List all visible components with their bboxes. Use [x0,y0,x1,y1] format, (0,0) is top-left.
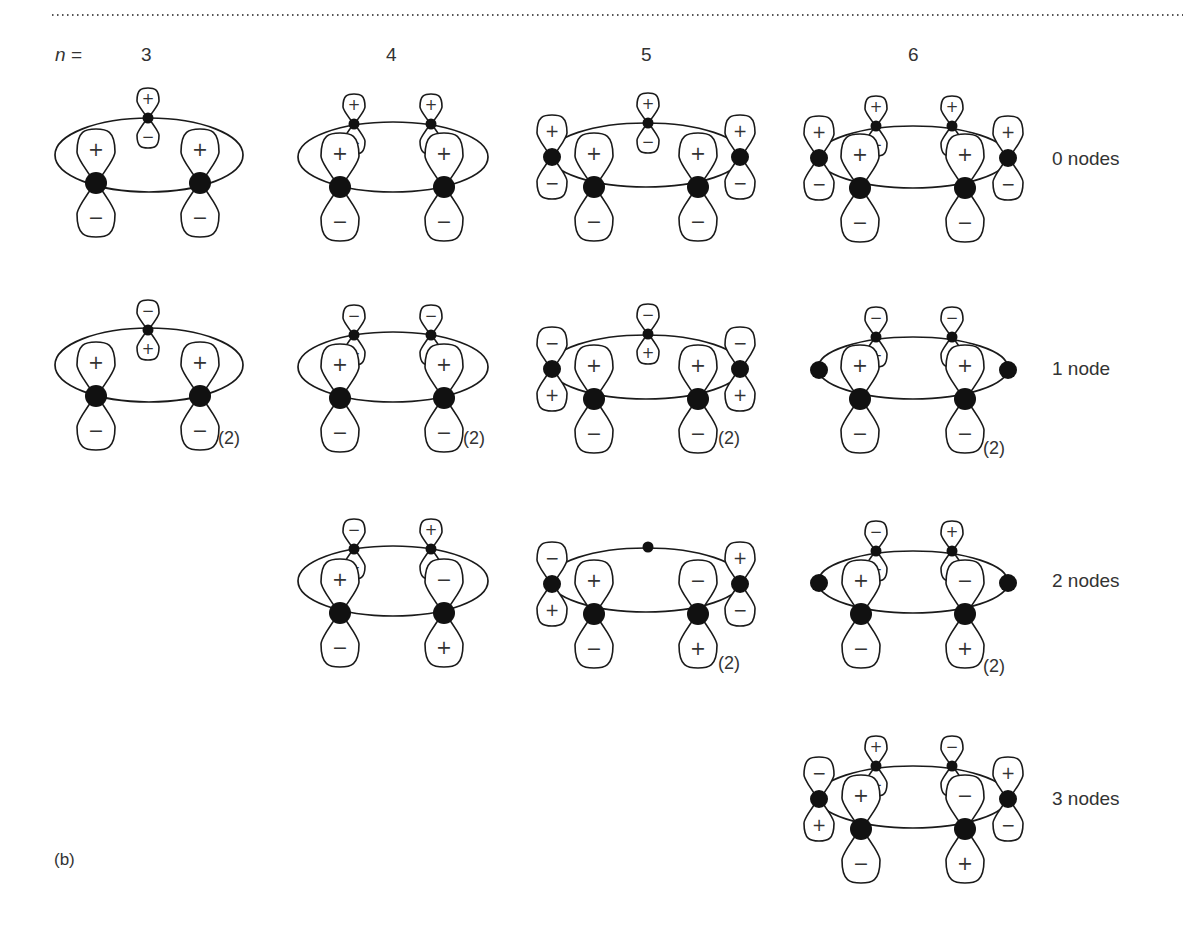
panel-label: (b) [54,850,75,870]
p-orbital: +− [537,115,567,199]
phase-sign-top: + [946,523,959,541]
row-label-2-nodes: 2 nodes [1052,570,1120,592]
carbon-atom [954,177,976,199]
mo-diagram-row2-n6: −++−+−−+ [810,521,1017,668]
carbon-atom [947,332,958,343]
carbon-atom [189,172,211,194]
phase-sign-bottom: + [812,815,826,835]
carbon-atom [947,546,958,557]
p-orbital: +− [725,115,755,199]
degeneracy-label: (2) [218,428,240,449]
row-label-1-node: 1 node [1052,358,1110,380]
carbon-atom [349,119,360,130]
phase-sign-bottom: − [852,211,868,233]
carbon-atom [999,790,1017,808]
p-orbital: −+ [946,775,984,883]
carbon-atom [871,761,882,772]
phase-sign-bottom: − [436,421,452,443]
phase-sign-top: + [852,143,868,165]
phase-sign-top: + [733,548,747,568]
carbon-atom [810,149,828,167]
row-label-0-nodes: 0 nodes [1052,148,1120,170]
orbital-diagrams: +−+−+−+−+−+−+−+−+−+−+−+−+−+−+−+−+−+−−++−… [55,88,1023,883]
phase-sign-bottom: + [733,385,747,405]
phase-sign-top: − [870,309,883,327]
phase-sign-top: − [946,309,959,327]
mo-diagram-row0-n4: +−+−+−+− [298,94,488,241]
phase-sign-top: + [853,784,869,806]
carbon-atom [643,329,654,340]
phase-sign-top: + [142,90,155,108]
phase-sign-bottom: − [733,173,747,193]
phase-sign-top: + [192,138,208,160]
carbon-atom [954,818,976,840]
phase-sign-top: − [812,763,826,783]
p-orbital: +− [575,345,613,453]
phase-sign-bottom: − [332,210,348,232]
phase-sign-top: + [425,521,438,539]
mo-diagram-row2-n4: −++−+−−+ [298,519,488,667]
mo-diagram-row3-n6: +−−+−++−+−−+ [804,736,1023,883]
phase-sign-top: − [946,738,959,756]
p-orbital: −+ [137,300,159,360]
phase-sign-bottom: + [690,637,706,659]
carbon-atom [954,388,976,410]
mo-diagram-row1-n3: −++−+− [55,300,243,450]
carbon-atom [687,176,709,198]
phase-sign-top: + [586,569,602,591]
p-orbital: −+ [804,757,834,841]
carbon-atom [687,603,709,625]
p-orbital: +− [679,133,717,241]
mo-diagram-row0-n5: +−+−+−+−+− [537,93,755,241]
p-orbital: +− [725,542,755,626]
carbon-atom [543,360,561,378]
mo-diagram-row2-n5: −++−+−−+ [537,542,755,669]
p-orbital: +− [946,134,984,242]
carbon-atom [543,148,561,166]
p-orbital: +− [77,129,115,237]
p-orbital: −+ [946,560,984,668]
p-orbital: +− [842,560,880,668]
phase-sign-bottom: + [545,385,559,405]
phase-sign-bottom: − [957,211,973,233]
phase-sign-bottom: − [853,637,869,659]
node-atom [999,574,1017,592]
p-orbital: −+ [637,304,659,364]
phase-sign-bottom: − [853,852,869,874]
carbon-atom [143,113,154,124]
phase-sign-bottom: − [88,206,104,228]
phase-sign-top: + [425,96,438,114]
carbon-atom [349,544,360,555]
carbon-atom [329,176,351,198]
phase-sign-top: + [853,569,869,591]
carbon-atom [583,603,605,625]
phase-sign-bottom: − [586,637,602,659]
carbon-atom [954,603,976,625]
phase-sign-top: + [436,353,452,375]
p-orbital [810,574,828,592]
mo-diagram-row1-n4: −+−++−+− [298,305,488,452]
phase-sign-top: − [436,568,452,590]
phase-sign-top: − [348,521,361,539]
p-orbital [810,361,828,379]
carbon-atom [643,118,654,129]
phase-sign-top: + [586,142,602,164]
phase-sign-bottom: − [332,636,348,658]
phase-sign-top: + [545,121,559,141]
carbon-atom [85,172,107,194]
phase-sign-bottom: − [957,422,973,444]
carbon-atom [189,385,211,407]
carbon-atom [426,544,437,555]
p-orbital: +− [425,133,463,241]
phase-sign-bottom: + [545,600,559,620]
phase-sign-top: + [348,96,361,114]
phase-sign-top: + [946,98,959,116]
phase-sign-top: + [957,354,973,376]
carbon-atom [143,325,154,336]
phase-sign-top: + [332,568,348,590]
phase-sign-bottom: − [690,422,706,444]
phase-sign-top: − [957,784,973,806]
p-orbital: −+ [537,327,567,411]
node-atom [643,542,654,553]
p-orbital: +− [804,116,834,200]
